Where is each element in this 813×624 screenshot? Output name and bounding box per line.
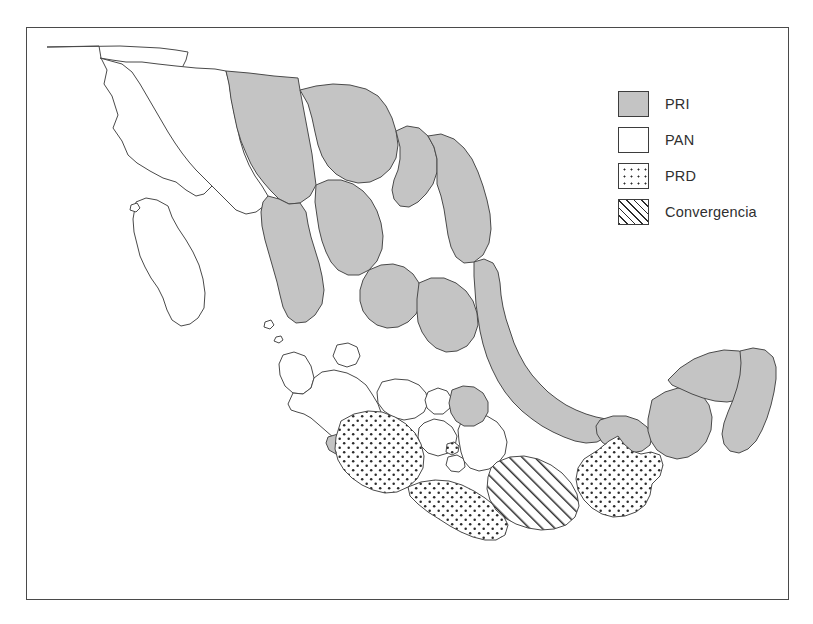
legend-swatch-pan [618, 127, 649, 153]
legend-item-prd: PRD [618, 158, 788, 194]
state-veracruz [474, 259, 610, 443]
state-durango [315, 180, 383, 275]
legend-item-convergencia: Convergencia [618, 194, 788, 230]
state-queretaro [425, 388, 452, 414]
legend-label-convergencia: Convergencia [665, 204, 757, 220]
state-hidalgo [449, 386, 488, 426]
state-michoacan [335, 411, 424, 493]
state-tamaulipas [428, 134, 491, 263]
legend-item-pri: PRI [618, 86, 788, 122]
map-figure: PRI PAN PRD Convergencia [0, 0, 813, 624]
state-coahuila [300, 84, 398, 183]
legend-swatch-prd [618, 163, 649, 189]
legend: PRI PAN PRD Convergencia [618, 86, 788, 230]
state-campeche [648, 388, 712, 459]
state-aguascalientes [333, 343, 360, 367]
state-morelos [446, 455, 465, 472]
legend-label-prd: PRD [665, 168, 696, 184]
state-zacatecas [360, 264, 422, 328]
legend-swatch-pri [618, 91, 649, 117]
legend-label-pan: PAN [665, 132, 694, 148]
legend-label-pri: PRI [665, 96, 690, 112]
state-sinaloa [261, 196, 324, 323]
island-detail-3 [274, 336, 283, 343]
state-san-luis-potosi [417, 278, 478, 352]
legend-item-pan: PAN [618, 122, 788, 158]
state-nayarit [279, 352, 314, 394]
state-bcs-shape [133, 198, 205, 326]
island-detail-2 [264, 320, 274, 329]
state-chiapas [576, 436, 663, 517]
legend-swatch-convergencia [618, 199, 649, 225]
state-distrito-federal [446, 442, 459, 455]
